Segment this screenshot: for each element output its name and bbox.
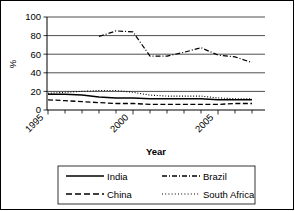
y-axis-label: % — [7, 59, 18, 68]
y-tick-label-20: 20 — [30, 86, 41, 97]
x-tick-label-2005: 2005 — [193, 112, 216, 135]
chart-legend: India Brazil China South Africa — [58, 166, 255, 204]
x-tick-label-1995: 1995 — [23, 112, 46, 135]
series-line-india — [48, 94, 252, 100]
y-tick-label-100: 100 — [25, 11, 41, 22]
gridlines — [47, 17, 265, 91]
y-tick-label-80: 80 — [30, 30, 41, 41]
line-chart: 100 80 60 40 20 0 % 1995 2000 2005 — [0, 0, 295, 211]
legend-label-china: China — [107, 189, 133, 200]
x-tick-marks — [48, 110, 252, 115]
x-axis-label: Year — [146, 146, 166, 157]
x-tick-label-2000: 2000 — [108, 112, 131, 135]
legend-label-brazil: Brazil — [203, 171, 227, 182]
y-tick-marks — [44, 17, 48, 110]
y-tick-label-60: 60 — [30, 49, 41, 60]
chart-figure: 100 80 60 40 20 0 % 1995 2000 2005 — [0, 0, 295, 211]
y-tick-label-40: 40 — [30, 67, 41, 78]
legend-label-south-africa: South Africa — [203, 189, 255, 200]
legend-label-india: India — [107, 171, 128, 182]
